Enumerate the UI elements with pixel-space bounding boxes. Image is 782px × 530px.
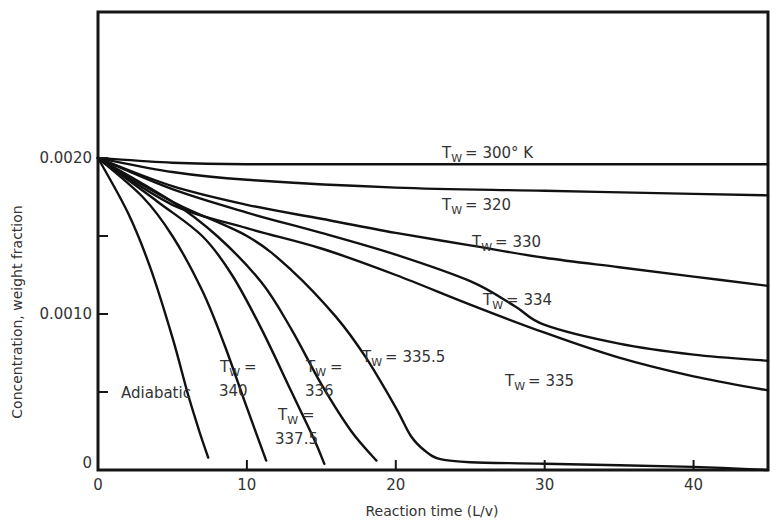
label-tw-320: TW= 320 <box>441 196 511 217</box>
label-tw-300: TW= 300° K <box>441 144 534 165</box>
curve-tw-335-5 <box>98 158 768 470</box>
x-tick-label: 20 <box>386 476 405 494</box>
label-tw-340: TW= <box>219 358 257 379</box>
tick-labels-group: 01020304000.00100.0020 <box>40 149 704 494</box>
x-tick-label: 40 <box>684 476 703 494</box>
label-tw-335: TW= 335 <box>504 372 574 393</box>
curve-adiabatic <box>98 158 208 458</box>
curve-tw-300-k <box>98 158 768 164</box>
value-tw-336: 336 <box>305 382 334 400</box>
y-tick-label: 0.0020 <box>40 149 93 167</box>
plot-frame <box>98 12 768 470</box>
label-tw-335-5: TW= 335.5 <box>361 348 445 369</box>
label-adiabatic: Adiabatic <box>121 384 191 402</box>
label-tw-337-5: TW= <box>277 406 315 427</box>
x-tick-label: 30 <box>535 476 554 494</box>
value-tw-340: 340 <box>219 382 248 400</box>
ticks-group <box>98 158 694 470</box>
x-axis-label: Reaction time (L/v) <box>365 503 498 519</box>
y-tick-label: 0.0010 <box>40 305 93 323</box>
label-tw-334: TW= 334 <box>482 291 552 312</box>
y-tick-label: 0 <box>82 454 92 472</box>
chart: 01020304000.00100.0020 Reaction time (L/… <box>0 0 782 530</box>
x-tick-label: 0 <box>93 476 103 494</box>
label-tw-330: TW= 330 <box>471 233 541 254</box>
x-tick-label: 10 <box>237 476 256 494</box>
label-tw-336: TW= <box>305 358 343 379</box>
value-tw-337-5: 337.5 <box>275 430 318 448</box>
y-axis-label: Concentration, weight fraction <box>9 205 25 418</box>
curves-group <box>98 158 768 470</box>
